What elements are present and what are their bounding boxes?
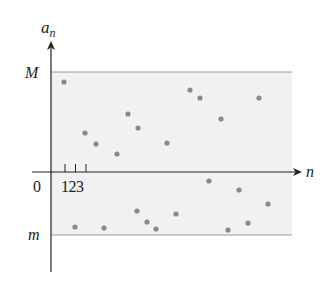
data-point — [93, 141, 98, 146]
data-point — [144, 219, 149, 224]
data-point — [134, 208, 139, 213]
upper-bound-label: M — [24, 64, 40, 81]
data-point — [82, 130, 87, 135]
data-point — [135, 125, 140, 130]
data-point — [245, 220, 250, 225]
origin-label: 0 — [33, 178, 41, 195]
sequence-bounded-chart: an M m n 0 123 — [0, 0, 328, 294]
data-point — [173, 211, 178, 216]
data-point — [153, 226, 158, 231]
data-point — [265, 201, 270, 206]
data-point — [187, 87, 192, 92]
x-axis-label: n — [306, 163, 314, 180]
data-point — [256, 95, 261, 100]
data-point — [114, 151, 119, 156]
lower-bound-label: m — [28, 226, 40, 243]
data-point — [218, 116, 223, 121]
data-point — [164, 140, 169, 145]
y-axis-label: an — [41, 18, 56, 40]
data-point — [101, 225, 106, 230]
data-point — [206, 178, 211, 183]
bounded-band — [51, 72, 292, 235]
data-point — [236, 187, 241, 192]
x-tick-labels: 123 — [61, 178, 84, 195]
data-point — [225, 227, 230, 232]
data-point — [61, 79, 66, 84]
data-point — [72, 224, 77, 229]
data-point — [125, 111, 130, 116]
data-point — [197, 95, 202, 100]
